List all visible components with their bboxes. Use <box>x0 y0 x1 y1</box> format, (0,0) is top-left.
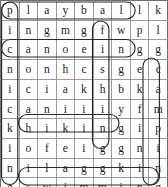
grid-cell[interactable]: l <box>19 1 38 21</box>
grid-cell[interactable]: s <box>19 178 38 187</box>
grid-cell[interactable]: a <box>93 1 112 21</box>
grid-cell[interactable]: g <box>112 60 131 80</box>
grid-cell[interactable]: h <box>19 119 38 139</box>
grid-cell[interactable]: o <box>19 138 38 158</box>
grid-cell[interactable]: c <box>19 79 38 99</box>
grid-cell[interactable]: i <box>1 20 20 40</box>
grid-cell[interactable]: i <box>19 158 38 178</box>
grid-cell[interactable]: l <box>130 1 149 21</box>
grid-row: g s w i m m i n g <box>1 178 168 187</box>
grid-cell[interactable]: g <box>130 40 149 60</box>
grid-cell[interactable]: k <box>1 119 20 139</box>
grid-cell[interactable]: n <box>130 178 149 187</box>
grid-cell[interactable]: f <box>38 138 57 158</box>
grid-cell[interactable]: m <box>93 178 112 187</box>
grid-cell[interactable]: n <box>1 158 20 178</box>
grid-cell[interactable]: n <box>93 119 112 139</box>
grid-cell[interactable]: g <box>1 178 20 187</box>
grid-cell[interactable]: i <box>130 119 149 139</box>
grid-cell[interactable]: n <box>38 99 57 119</box>
grid-cell[interactable]: n <box>19 20 38 40</box>
grid-cell[interactable]: c <box>149 60 168 80</box>
grid-cell[interactable]: i <box>93 40 112 60</box>
grid-cell[interactable]: i <box>38 79 57 99</box>
grid-cell[interactable]: g <box>149 40 168 60</box>
grid-cell[interactable]: a <box>19 40 38 60</box>
grid-row: i o f e i g g n i <box>1 138 168 158</box>
grid-cell[interactable]: m <box>56 20 75 40</box>
grid-cell[interactable]: e <box>130 60 149 80</box>
grid-cell[interactable]: b <box>75 1 94 21</box>
grid-cell[interactable]: b <box>112 79 131 99</box>
grid-cell[interactable]: g <box>38 20 57 40</box>
grid-cell[interactable]: y <box>112 99 131 119</box>
grid-row: i c i a k h b k a <box>1 79 168 99</box>
grid-cell[interactable]: i <box>56 178 75 187</box>
grid-cell[interactable]: m <box>149 99 168 119</box>
grid-cell[interactable]: f <box>93 20 112 40</box>
grid-cell[interactable]: g <box>112 119 131 139</box>
grid-cell[interactable]: i <box>112 178 131 187</box>
grid-cell[interactable]: a <box>56 158 75 178</box>
grid-cell[interactable]: c <box>1 40 20 60</box>
grid-cell[interactable]: a <box>19 99 38 119</box>
grid-cell[interactable]: i <box>130 158 149 178</box>
grid-cell[interactable]: i <box>149 138 168 158</box>
grid-cell[interactable]: p <box>1 1 20 21</box>
grid-cell[interactable]: n <box>149 158 168 178</box>
grid-cell[interactable]: l <box>38 158 57 178</box>
grid-cell[interactable]: g <box>149 178 168 187</box>
grid-cell[interactable]: m <box>75 178 94 187</box>
word-search-puzzle: p l a y b a l l k i n g m g f w p l <box>0 0 168 187</box>
grid-cell[interactable]: k <box>75 79 94 99</box>
grid-cell[interactable]: k <box>112 158 131 178</box>
grid-cell[interactable]: h <box>93 79 112 99</box>
grid-cell[interactable]: p <box>130 20 149 40</box>
grid-cell[interactable]: o <box>56 40 75 60</box>
grid-cell[interactable]: e <box>56 138 75 158</box>
grid-cell[interactable]: l <box>149 20 168 40</box>
grid-cell[interactable]: i <box>75 138 94 158</box>
grid-cell[interactable]: f <box>130 99 149 119</box>
grid-cell[interactable]: g <box>75 20 94 40</box>
grid-cell[interactable]: i <box>93 99 112 119</box>
grid-cell[interactable]: l <box>112 1 131 21</box>
grid-cell[interactable]: a <box>149 79 168 99</box>
grid-cell[interactable]: o <box>19 60 38 80</box>
grid-cell[interactable]: w <box>112 20 131 40</box>
grid-cell[interactable]: i <box>1 79 20 99</box>
grid-cell[interactable]: n <box>112 40 131 60</box>
grid-row: k h i k i n g i p <box>1 119 168 139</box>
grid-cell[interactable]: n <box>1 60 20 80</box>
grid-cell[interactable]: i <box>75 99 94 119</box>
grid-cell[interactable]: c <box>1 99 20 119</box>
grid-row: n i l a g g k i n <box>1 158 168 178</box>
grid-cell[interactable]: i <box>38 119 57 139</box>
grid-cell[interactable]: g <box>93 158 112 178</box>
grid-cell[interactable]: i <box>75 119 94 139</box>
grid-cell[interactable]: p <box>149 119 168 139</box>
grid-cell[interactable]: h <box>56 60 75 80</box>
grid-cell[interactable]: n <box>38 40 57 60</box>
grid-cell[interactable]: k <box>149 1 168 21</box>
grid-cell[interactable]: c <box>75 60 94 80</box>
grid-row: i n g m g f w p l <box>1 20 168 40</box>
letter-grid: p l a y b a l l k i n g m g f w p l <box>0 0 168 187</box>
grid-row: c a n o e i n g g <box>1 40 168 60</box>
grid-cell[interactable]: k <box>130 79 149 99</box>
grid-cell[interactable]: a <box>38 1 57 21</box>
grid-cell[interactable]: g <box>93 138 112 158</box>
grid-cell[interactable]: n <box>130 138 149 158</box>
grid-cell[interactable]: y <box>56 1 75 21</box>
grid-cell[interactable]: g <box>112 138 131 158</box>
grid-cell[interactable]: s <box>93 60 112 80</box>
grid-cell[interactable]: i <box>1 138 20 158</box>
grid-cell[interactable]: w <box>38 178 57 187</box>
grid-cell[interactable]: a <box>56 79 75 99</box>
grid-cell[interactable]: g <box>75 158 94 178</box>
grid-cell[interactable]: i <box>56 99 75 119</box>
grid-cell[interactable]: e <box>75 40 94 60</box>
grid-row: c a n i i i y f m <box>1 99 168 119</box>
grid-cell[interactable]: k <box>56 119 75 139</box>
grid-cell[interactable]: n <box>38 60 57 80</box>
